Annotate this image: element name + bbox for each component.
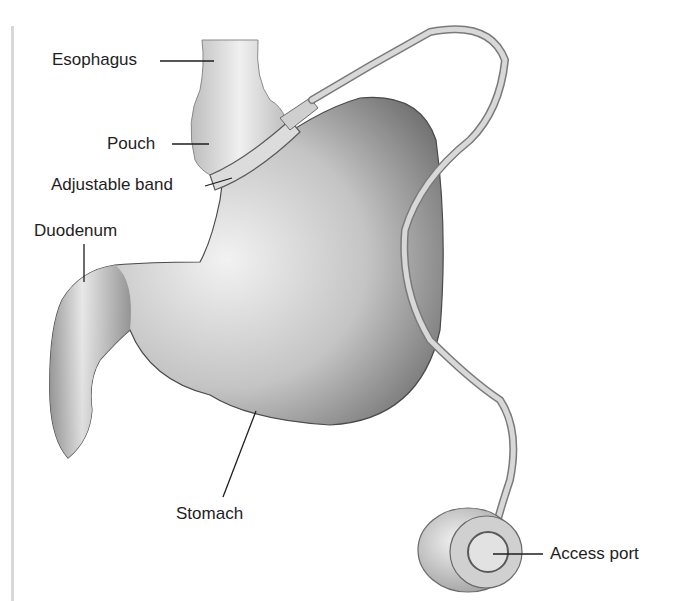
label-adjustable-band: Adjustable band bbox=[51, 175, 173, 195]
label-esophagus: Esophagus bbox=[52, 50, 137, 70]
label-pouch: Pouch bbox=[107, 134, 155, 154]
gastric-band-illustration bbox=[0, 0, 686, 601]
label-stomach: Stomach bbox=[176, 504, 243, 524]
label-access-port: Access port bbox=[550, 544, 639, 564]
access-port-septum bbox=[468, 532, 508, 572]
label-duodenum: Duodenum bbox=[34, 221, 117, 241]
duodenum-shape bbox=[50, 265, 131, 458]
